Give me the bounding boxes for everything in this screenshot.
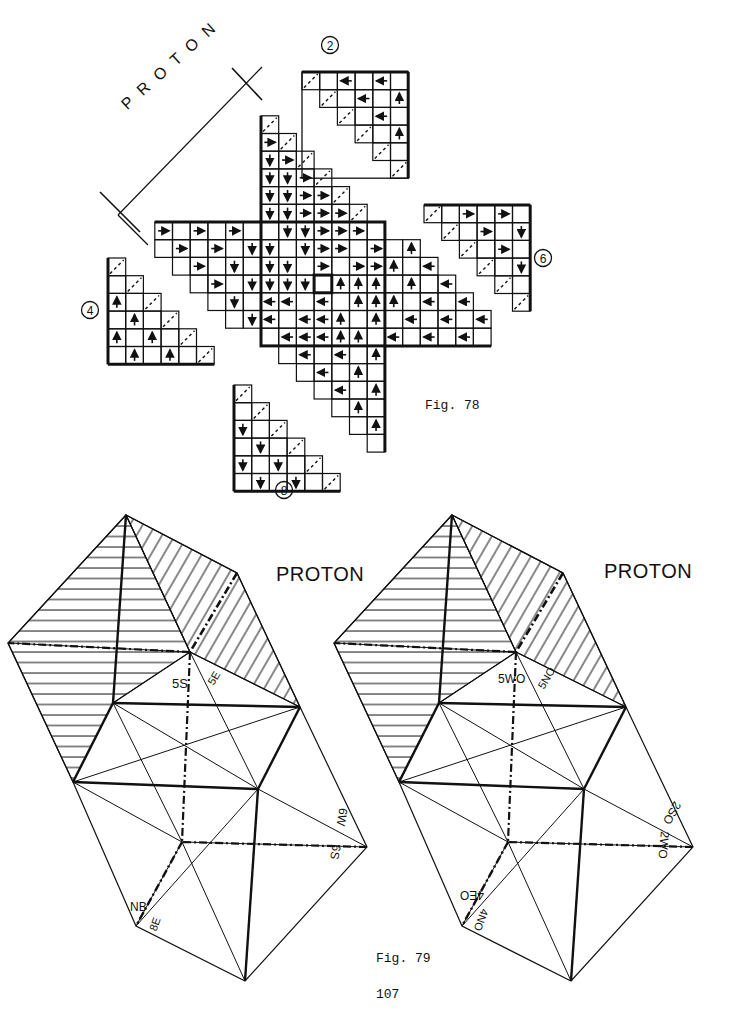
label-nb: NB — [130, 900, 147, 914]
pyramid-right — [334, 515, 693, 981]
label-6s: 6S — [327, 844, 343, 861]
label-4eo: 4EO — [460, 888, 484, 902]
label-5s: 5S — [172, 676, 188, 691]
pyramid-left-title: PROTON — [276, 563, 364, 586]
label-5wo: 5WO — [498, 672, 525, 686]
pyramid-right-title: PROTON — [604, 560, 692, 583]
page-number: 107 — [376, 987, 399, 1002]
label-2wo: 2WO — [656, 831, 672, 859]
fig79-caption: Fig. 79 — [376, 951, 431, 966]
fig79-diagram — [0, 0, 729, 1026]
